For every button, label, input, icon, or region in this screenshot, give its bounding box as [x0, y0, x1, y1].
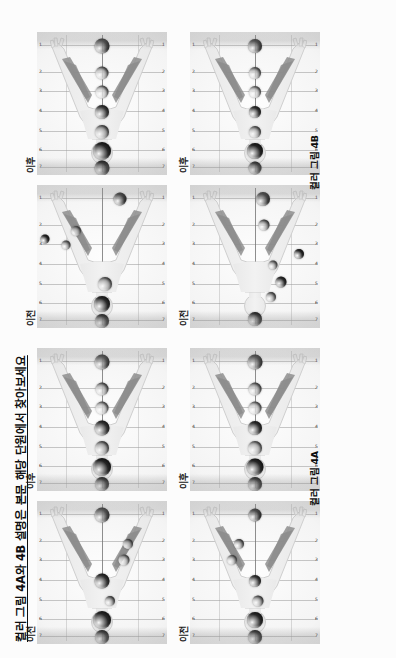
data-point-solar-plexus[interactable] — [249, 86, 261, 98]
data-point-solar-plexus[interactable] — [227, 555, 237, 565]
data-point-heart[interactable] — [95, 421, 110, 436]
data-point-root[interactable] — [95, 355, 110, 370]
chart-panel[interactable]: 76543217654321 — [37, 185, 167, 328]
data-point-root[interactable] — [256, 192, 270, 206]
data-point-extra-high[interactable] — [40, 235, 49, 244]
panel-cell-b1-after: 이후 76543217654321 — [26, 32, 167, 175]
axis-tick-top: 5 — [192, 128, 195, 133]
data-point-root[interactable] — [114, 193, 127, 206]
data-point-crown[interactable] — [248, 312, 262, 326]
axis-tick-top: 7 — [39, 633, 42, 638]
data-point-third-eye[interactable] — [247, 143, 263, 159]
data-point-throat[interactable] — [95, 125, 109, 139]
figure-caption-4b: 컬러 그림 4B — [307, 135, 321, 190]
axis-tick-top: 4 — [39, 108, 42, 113]
panel-cell-a1-after: 이후 76543217654321 — [26, 348, 167, 491]
axis-tick-bottom: 5 — [162, 128, 165, 133]
data-point-solar-plexus[interactable] — [96, 402, 109, 415]
axis-tick-top: 4 — [192, 424, 195, 429]
panel-label-after: 이후 — [26, 32, 36, 173]
axis-tick-top: 7 — [39, 164, 42, 169]
data-point-root[interactable] — [95, 508, 110, 523]
chart-panel[interactable]: 76543217654321 — [37, 501, 167, 644]
axis-tick-top: 7 — [39, 317, 42, 322]
data-point-throat[interactable] — [252, 596, 263, 607]
data-point-throat[interactable] — [95, 441, 109, 455]
data-point-throat[interactable] — [248, 441, 262, 455]
figure-group-4a: 이전 76543217654321 이후 7654 — [26, 348, 320, 644]
chart-panel[interactable]: 76543217654321 — [37, 32, 167, 175]
data-point-solar-plexus[interactable] — [294, 249, 304, 259]
axis-tick-top: 2 — [39, 539, 42, 544]
data-point-third-eye[interactable] — [247, 458, 264, 475]
data-point-third-eye[interactable] — [266, 292, 276, 302]
figures-grid: 이전 76543217654321 이후 7654 — [26, 12, 390, 646]
axis-tick-bottom: 3 — [315, 241, 318, 246]
data-point-crown[interactable] — [248, 630, 262, 644]
data-point-crown[interactable] — [95, 160, 110, 175]
data-point-root[interactable] — [95, 39, 110, 54]
data-point-throat[interactable] — [105, 596, 115, 606]
chart-panel[interactable]: 76543217654321 — [37, 348, 167, 491]
panel-row: 이전 76543217654321 이후 7654 — [26, 32, 167, 328]
data-point-crown[interactable] — [95, 477, 109, 491]
axis-tick-bottom: 3 — [162, 88, 165, 93]
data-point-sacral[interactable] — [249, 383, 262, 396]
data-point-third-eye[interactable] — [93, 458, 111, 476]
axis-tick-bottom: 1 — [315, 511, 318, 516]
data-point-root[interactable] — [248, 39, 262, 53]
data-point-root[interactable] — [249, 509, 262, 522]
panel-row: 이전 76543217654321 이후 7654 — [179, 348, 320, 644]
data-point-sacral[interactable] — [234, 539, 244, 549]
axis-tick-top: 4 — [192, 108, 195, 113]
data-point-third-eye[interactable] — [93, 611, 111, 629]
data-point-heart[interactable] — [95, 574, 110, 589]
axis-tick-bottom: 3 — [162, 557, 165, 562]
axis-tick-bottom: 4 — [162, 577, 165, 582]
data-point-throat[interactable] — [98, 277, 112, 291]
chart-panel[interactable]: 76543217654321 — [190, 501, 320, 644]
data-point-throat[interactable] — [276, 277, 287, 288]
axis-tick-top: 5 — [192, 597, 195, 602]
data-point-third-eye[interactable] — [247, 612, 263, 628]
chart-panel[interactable]: 76543217654321 — [190, 185, 320, 328]
data-point-third-eye[interactable] — [94, 296, 110, 312]
data-point-heart[interactable] — [248, 421, 262, 435]
chart-panel[interactable]: 76543217654321 — [190, 32, 320, 175]
axis-tick-bottom: 5 — [162, 597, 165, 602]
data-point-sacral[interactable] — [259, 220, 270, 231]
axis-tick-bottom: 4 — [162, 424, 165, 429]
panel-label-before: 이전 — [26, 185, 36, 326]
data-point-heart[interactable] — [249, 575, 261, 587]
axis-tick-top: 4 — [39, 577, 42, 582]
chart-panel[interactable]: 76543217654321 — [190, 348, 320, 491]
data-point-crown[interactable] — [95, 630, 109, 644]
data-point-sacral[interactable] — [96, 67, 109, 80]
data-point-sacral[interactable] — [96, 383, 109, 396]
data-point-heart[interactable] — [95, 105, 109, 119]
data-point-sacral[interactable] — [71, 226, 81, 236]
data-point-heart[interactable] — [249, 106, 261, 118]
axis-tick-top: 2 — [39, 223, 42, 228]
data-point-heart[interactable] — [269, 261, 278, 270]
data-point-third-eye[interactable] — [93, 142, 111, 160]
data-point-sacral[interactable] — [249, 67, 261, 79]
axis-tick-top: 6 — [192, 616, 195, 621]
data-point-solar-plexus[interactable] — [119, 554, 130, 565]
axis-tick-bottom: 3 — [315, 88, 318, 93]
axis-tick-bottom: 2 — [162, 539, 165, 544]
panel-label-after: 이후 — [26, 348, 36, 489]
axis-tick-bottom: 4 — [315, 424, 318, 429]
axis-tick-bottom: 6 — [162, 616, 165, 621]
axis-tick-top: 3 — [39, 404, 42, 409]
data-point-crown[interactable] — [248, 477, 262, 491]
data-point-crown[interactable] — [249, 161, 262, 174]
data-point-solar-plexus[interactable] — [61, 241, 70, 250]
data-point-sacral[interactable] — [123, 539, 133, 549]
data-point-crown[interactable] — [95, 314, 109, 328]
axis-tick-bottom: 4 — [315, 261, 318, 266]
data-point-throat[interactable] — [249, 126, 261, 138]
data-point-root[interactable] — [248, 355, 263, 370]
data-point-solar-plexus[interactable] — [96, 86, 109, 99]
data-point-solar-plexus[interactable] — [249, 402, 262, 415]
